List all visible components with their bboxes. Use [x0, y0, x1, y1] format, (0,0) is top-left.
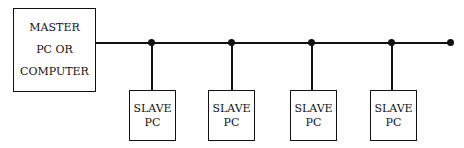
drop-line-3	[311, 43, 313, 91]
slave-label: SLAVE	[133, 102, 171, 116]
master-label-line3: COMPUTER	[20, 65, 89, 79]
slave-sublabel: PC	[306, 116, 322, 130]
slave-pc-box-3: SLAVE PC	[290, 90, 337, 141]
master-pc-box: MASTER PC OR COMPUTER	[13, 8, 96, 92]
bus-end-dot	[447, 39, 454, 46]
slave-pc-box-4: SLAVE PC	[370, 90, 417, 141]
drop-line-4	[391, 43, 393, 91]
slave-sublabel: PC	[224, 116, 240, 130]
slave-pc-box-1: SLAVE PC	[129, 90, 176, 141]
slave-label: SLAVE	[374, 102, 412, 116]
drop-line-2	[231, 43, 233, 91]
drop-line-1	[151, 43, 153, 91]
slave-label: SLAVE	[294, 102, 332, 116]
slave-sublabel: PC	[145, 116, 161, 130]
slave-label: SLAVE	[212, 102, 250, 116]
master-label-line2: PC OR	[36, 43, 73, 57]
master-label-line1: MASTER	[29, 21, 79, 35]
slave-sublabel: PC	[386, 116, 402, 130]
slave-pc-box-2: SLAVE PC	[208, 90, 255, 141]
